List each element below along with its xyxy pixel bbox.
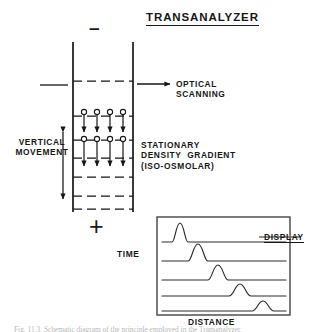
column-walls [73, 42, 133, 212]
particle-row-lower [81, 136, 125, 141]
vertical-movement-label: VERTICAL MOVEMENT [8, 137, 76, 158]
transanalyzer-figure: TRANSANALYZER – + OPTICAL SCANNING STATI… [0, 0, 319, 332]
density-gradient-strata [73, 81, 133, 209]
particle-row-upper [81, 109, 125, 114]
optical-scanning-label: OPTICAL SCANNING [176, 79, 225, 100]
figure-caption: Fig. 11.3. Schematic diagram of the prin… [14, 325, 310, 332]
positive-electrode-sign: + [89, 211, 104, 242]
sedimentation-arrows-upper [84, 115, 123, 132]
display-label: DISPLAY [264, 232, 304, 243]
sedimentation-arrows-lower [84, 142, 123, 166]
negative-electrode-sign: – [89, 16, 100, 39]
figure-title: TRANSANALYZER [146, 10, 259, 26]
time-axis-label: TIME [117, 249, 139, 259]
stationary-density-gradient-label: STATIONARY DENSITY GRADIENT (ISO-OSMOLAR… [141, 140, 236, 171]
